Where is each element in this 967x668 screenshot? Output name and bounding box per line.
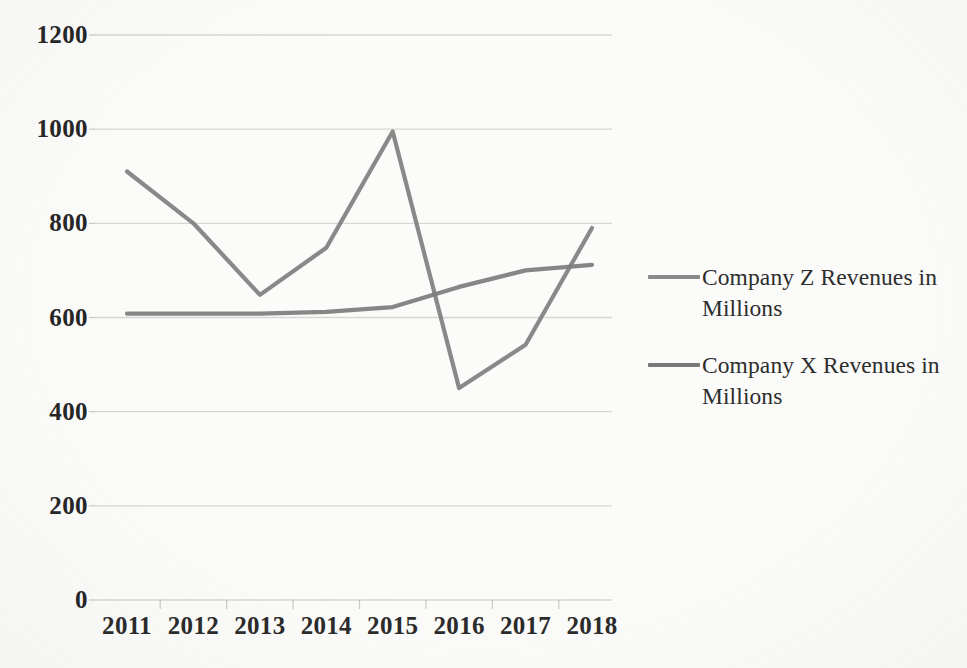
legend-item-label: Company X Revenues in Millions — [702, 350, 952, 412]
x-axis-tick-label: 2011 — [102, 612, 152, 640]
legend-item: Company Z Revenues in Millions — [648, 262, 958, 324]
x-axis-tick-labels: 20112012201320142015201620172018 — [0, 612, 640, 658]
x-axis-tick-label: 2013 — [234, 612, 285, 640]
chart-legend: Company Z Revenues in Millions Company X… — [648, 262, 958, 438]
data-series — [127, 132, 592, 389]
x-axis-tick-label: 2012 — [168, 612, 219, 640]
line-chart: 020040060080010001200 201120122013201420… — [0, 0, 967, 668]
x-axis-tick-label: 2015 — [367, 612, 418, 640]
gridlines — [95, 35, 612, 600]
legend-swatch-icon — [648, 363, 700, 367]
x-axis-tick-label: 2014 — [301, 612, 352, 640]
x-axis-ticks — [89, 35, 559, 609]
legend-item: Company X Revenues in Millions — [648, 350, 958, 412]
x-axis-tick-label: 2016 — [434, 612, 485, 640]
x-axis-tick-label: 2018 — [566, 612, 617, 640]
legend-swatch-icon — [648, 275, 700, 279]
legend-item-label: Company Z Revenues in Millions — [702, 262, 952, 324]
x-axis-tick-label: 2017 — [500, 612, 551, 640]
